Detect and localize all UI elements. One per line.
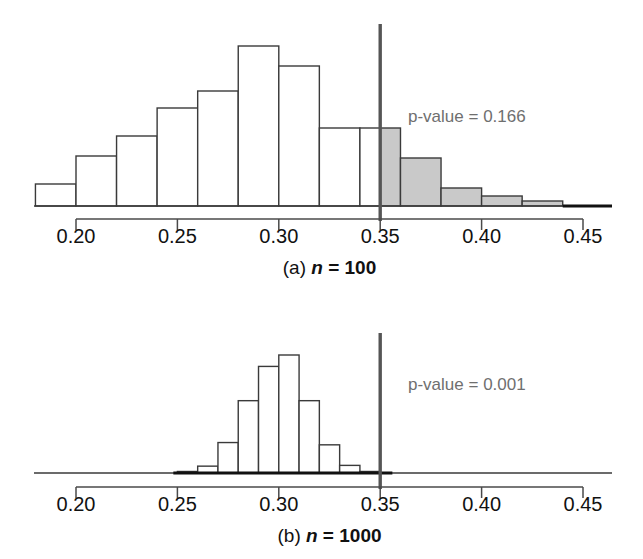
x-axis-tick-label: 0.45: [564, 225, 603, 247]
histogram-bar: [238, 46, 279, 206]
histogram-bar-shaded: [441, 188, 482, 206]
x-axis-tick-label: 0.40: [462, 493, 501, 515]
x-axis-tick-label: 0.35: [361, 493, 400, 515]
x-axis-tick-label: 0.25: [158, 493, 197, 515]
x-axis-tick-label: 0.25: [158, 225, 197, 247]
p-value-label: p-value = 0.001: [408, 375, 526, 394]
caption-variable: n: [306, 525, 318, 546]
histogram-bar: [218, 443, 238, 473]
histogram-bar: [319, 128, 360, 206]
histogram-bar: [76, 156, 117, 206]
x-axis-tick-label: 0.30: [259, 225, 298, 247]
caption-prefix: (a): [283, 257, 312, 278]
x-axis-tick-label: 0.30: [259, 493, 298, 515]
x-axis-tick-label: 0.40: [462, 225, 501, 247]
histogram-bar: [157, 108, 198, 206]
caption-value: = 1000: [318, 525, 382, 546]
statistics-figure: 0.200.250.300.350.400.45p-value = 0.166(…: [0, 0, 643, 559]
x-axis-tick-label: 0.20: [57, 225, 96, 247]
histogram-bar: [299, 401, 319, 473]
x-axis-tick-label: 0.35: [361, 225, 400, 247]
p-value-label: p-value = 0.166: [408, 107, 526, 126]
histogram-bar: [238, 401, 258, 473]
histogram-bar: [35, 184, 76, 206]
panel-caption: (b) n = 1000: [277, 525, 381, 546]
histogram-bar: [198, 91, 239, 206]
histogram-bar: [279, 66, 320, 206]
caption-variable: n: [311, 257, 323, 278]
histogram-bar: [117, 136, 158, 206]
histogram-bar: [259, 366, 279, 473]
figure-canvas: 0.200.250.300.350.400.45p-value = 0.166(…: [0, 0, 643, 559]
histogram-bar: [319, 445, 339, 473]
panel-a: 0.200.250.300.350.400.45p-value = 0.166(…: [34, 24, 612, 278]
histogram-bar: [279, 355, 299, 473]
caption-value: = 100: [323, 257, 376, 278]
x-axis-tick-label: 0.20: [57, 493, 96, 515]
caption-prefix: (b): [277, 525, 306, 546]
panel-b: 0.200.250.300.350.400.45p-value = 0.001(…: [34, 333, 612, 546]
histogram-bar-shaded: [400, 158, 441, 206]
histogram-bar-shaded: [482, 196, 523, 206]
histogram-bar-shaded: [380, 128, 400, 206]
x-axis-tick-label: 0.45: [564, 493, 603, 515]
histogram-bar: [360, 128, 380, 206]
panel-caption: (a) n = 100: [283, 257, 376, 278]
